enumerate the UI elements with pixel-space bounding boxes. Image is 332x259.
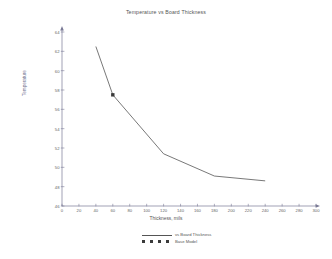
legend-marker-swatch — [142, 239, 172, 245]
x-tick-label: 160 — [194, 208, 201, 213]
y-tick-label: 58 — [55, 88, 60, 93]
x-tick-label: 120 — [160, 208, 167, 213]
legend-label-marker: Base Model — [175, 239, 197, 244]
x-tick-label: 0 — [61, 208, 63, 213]
legend-item-line: vs Board Thickness — [142, 231, 211, 238]
x-tick-label: 200 — [228, 208, 235, 213]
data-series-group — [96, 47, 265, 181]
chart-container: Temperature vs Board Thickness Temperatu… — [0, 0, 332, 259]
x-tick-label: 240 — [262, 208, 269, 213]
chart-legend: vs Board Thickness Base Model — [142, 231, 211, 245]
y-tick-label: 64 — [55, 30, 60, 35]
y-tick-label: 52 — [55, 146, 60, 151]
x-tick-label: 80 — [127, 208, 132, 213]
x-tick-label: 60 — [110, 208, 115, 213]
y-tick-label: 60 — [55, 68, 60, 73]
legend-line-swatch — [142, 232, 172, 238]
y-tick-label: 56 — [55, 107, 60, 112]
y-tick-label: 62 — [55, 49, 60, 54]
data-marker — [111, 93, 114, 96]
x-tick-label: 220 — [245, 208, 252, 213]
axes — [60, 26, 320, 208]
data-line-0 — [96, 47, 265, 181]
x-tick-label: 20 — [77, 208, 82, 213]
y-tick-label: 48 — [55, 184, 60, 189]
y-axis-arrow-icon — [60, 26, 64, 31]
y-tick-label: 54 — [55, 126, 60, 131]
x-tick-label: 180 — [211, 208, 218, 213]
plot-area — [0, 0, 332, 259]
y-axis-ticks — [61, 32, 65, 206]
x-tick-label: 40 — [94, 208, 99, 213]
legend-label-line: vs Board Thickness — [175, 232, 211, 237]
x-tick-label: 300 — [313, 208, 320, 213]
x-tick-label: 280 — [296, 208, 303, 213]
y-tick-label: 50 — [55, 165, 60, 170]
x-tick-label: 140 — [177, 208, 184, 213]
x-tick-label: 100 — [143, 208, 150, 213]
x-tick-label: 260 — [279, 208, 286, 213]
legend-item-marker: Base Model — [142, 238, 211, 245]
y-tick-label: 46 — [55, 204, 60, 209]
